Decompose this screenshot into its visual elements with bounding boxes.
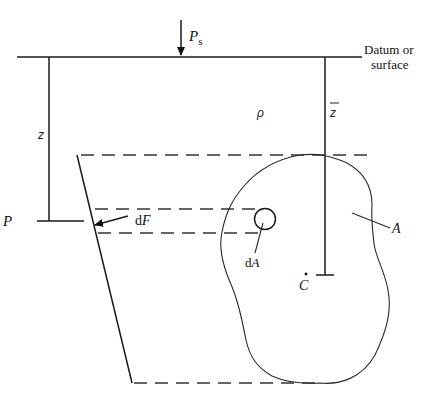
point-p-label: P <box>2 213 12 229</box>
force-label: dF <box>135 213 151 228</box>
force-arrow <box>95 216 128 225</box>
area-leader <box>352 213 390 228</box>
surface-pressure-label: Ps <box>188 28 202 47</box>
depth-label: z <box>37 128 44 142</box>
diagram: Ps Datum or surface z P ρ z C dF dA A <box>0 0 427 406</box>
density-label: ρ <box>256 106 264 120</box>
diagram-canvas: Ps Datum or surface z P ρ z C dF dA A <box>0 0 427 406</box>
centroid-label: C <box>299 278 309 293</box>
area-element-label: dA <box>245 255 260 270</box>
datum-label: Datum or <box>364 42 414 57</box>
datum-label-line2: surface <box>371 57 409 72</box>
area-label: A <box>391 221 401 236</box>
inclined-plate <box>77 155 132 383</box>
centroid-depth-label: z <box>329 106 336 120</box>
area-element <box>255 209 276 230</box>
centroid-dot <box>305 273 308 276</box>
